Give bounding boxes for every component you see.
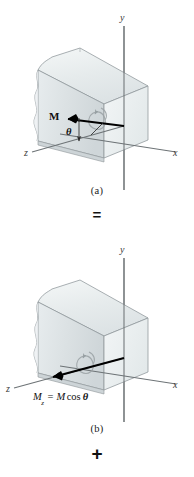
equation-z-subscript: z bbox=[41, 399, 44, 407]
axis-label-z: z bbox=[6, 383, 10, 394]
figure-panel-a: y x z M θ bbox=[0, 0, 194, 240]
axis-label-z: z bbox=[24, 147, 28, 158]
operator-plus: + bbox=[0, 444, 194, 463]
equation-m-factor: M bbox=[56, 391, 65, 402]
equation-cos: cos bbox=[67, 391, 81, 402]
angle-label-theta: θ bbox=[66, 126, 71, 137]
operator-equals: = bbox=[0, 206, 194, 223]
panel-a-drawing bbox=[0, 0, 194, 240]
caption-panel-b: (b) bbox=[0, 423, 194, 434]
axis-label-x: x bbox=[173, 147, 177, 158]
equation-theta: θ bbox=[83, 391, 88, 402]
vector-label-m: M bbox=[49, 110, 59, 122]
equation-mz-equals-mcostheta: Mz=Mcosθ bbox=[33, 391, 88, 405]
mechanics-figure: y x z M θ (a) = bbox=[0, 0, 194, 477]
figure-panel-b: y x z Mz=Mcosθ bbox=[0, 240, 194, 477]
axis-label-x: x bbox=[173, 379, 177, 390]
axis-label-y: y bbox=[120, 12, 124, 23]
panel-b-drawing bbox=[0, 240, 194, 477]
caption-panel-a: (a) bbox=[0, 185, 194, 196]
equation-equals: = bbox=[47, 391, 53, 402]
axis-label-y: y bbox=[120, 244, 124, 255]
